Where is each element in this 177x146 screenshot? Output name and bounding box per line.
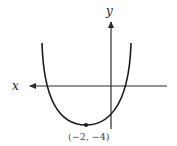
parabola-curve: [42, 43, 131, 125]
vertex-point: [84, 123, 88, 127]
x-axis-label: x: [12, 79, 19, 93]
parabola-diagram: x y (−2, −4): [0, 0, 177, 146]
vertex-label: (−2, −4): [68, 131, 109, 142]
y-axis-label: y: [105, 4, 113, 18]
